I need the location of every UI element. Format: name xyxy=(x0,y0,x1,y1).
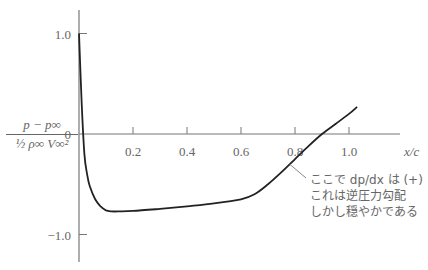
annotation-line-1: ここで dp/dx は (+) xyxy=(310,172,423,188)
x-tick-label: 0.4 xyxy=(179,144,196,159)
y-axis-label: p − p∞ ½ ρ∞ V∞² xyxy=(6,117,78,152)
x-ticks: 0.20.40.60.81.0 xyxy=(125,127,357,159)
x-tick-label: 0.2 xyxy=(125,144,141,159)
annotation-leader-line xyxy=(290,164,306,178)
x-tick-label: 0.6 xyxy=(233,144,250,159)
y-axis-label-numerator: p − p∞ xyxy=(6,117,78,135)
annotation-text: ここで dp/dx は (+) これは逆圧力勾配 しかし穏やかである xyxy=(310,172,423,220)
y-axis-label-denominator: ½ ρ∞ V∞² xyxy=(6,135,78,152)
y-tick-label: −1.0 xyxy=(47,228,71,243)
annotation-line-3: しかし穏やかである xyxy=(310,204,423,220)
x-tick-label: 1.0 xyxy=(341,144,357,159)
y-tick-label: 1.0 xyxy=(55,27,71,42)
x-tick-label: 0.8 xyxy=(287,144,303,159)
x-axis-label: x/c xyxy=(403,144,419,159)
annotation-line-2: これは逆圧力勾配 xyxy=(310,188,423,204)
